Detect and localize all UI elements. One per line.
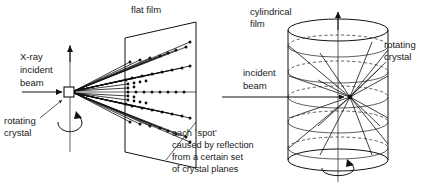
xray-beam-label-line2: incident bbox=[20, 64, 53, 75]
cylindrical-film-label-line2: film bbox=[250, 18, 265, 29]
diffraction-diagram: X-ray incident beam rotating crystal fla… bbox=[0, 0, 424, 189]
rotating-crystal-leader-left bbox=[40, 100, 62, 118]
rotating-crystal-label-right-line1: rotating bbox=[384, 39, 416, 50]
diffracted-rays-upper bbox=[74, 42, 190, 91]
incident-beam-label-right-line1: incident bbox=[243, 67, 276, 78]
caption-line2: caused by reflection bbox=[172, 140, 254, 150]
rotating-crystal-label-right-line2: crystal bbox=[384, 51, 411, 62]
left-panel-group: X-ray incident beam rotating crystal fla… bbox=[4, 4, 254, 174]
xray-beam-label-line1: X-ray bbox=[20, 51, 43, 62]
right-panel-group: cylindrical film incident beam rotating … bbox=[222, 6, 416, 182]
rotating-crystal-left bbox=[64, 87, 74, 97]
rotating-crystal-label-left-line1: rotating bbox=[4, 115, 36, 126]
caption-line4: of crystal planes bbox=[172, 164, 239, 174]
flat-film-label: flat film bbox=[131, 4, 161, 15]
rotating-crystal-label-left-line2: crystal bbox=[4, 127, 31, 138]
xray-beam-label-line3: beam bbox=[20, 77, 44, 88]
rotating-crystal-right bbox=[348, 95, 353, 100]
incident-beam-label-right-line2: beam bbox=[243, 80, 267, 91]
caption-line3: from a certain set bbox=[172, 152, 243, 162]
cylindrical-film-label-line1: cylindrical bbox=[250, 6, 292, 17]
figure-root: X-ray incident beam rotating crystal fla… bbox=[0, 0, 424, 189]
diffraction-cones-right bbox=[289, 42, 388, 155]
caption-line1: each `spot' bbox=[172, 128, 217, 138]
